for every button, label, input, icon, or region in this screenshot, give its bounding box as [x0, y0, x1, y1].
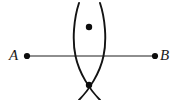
point-a-label: A	[9, 48, 18, 63]
arc-intersection-top-dot	[86, 24, 92, 30]
geometry-figure: A B	[0, 0, 179, 100]
point-a-dot	[24, 53, 30, 59]
arc-intersection-bottom-dot	[86, 82, 92, 88]
point-b-dot	[152, 53, 158, 59]
construction-drawing	[0, 0, 179, 100]
point-b-label: B	[160, 48, 169, 63]
